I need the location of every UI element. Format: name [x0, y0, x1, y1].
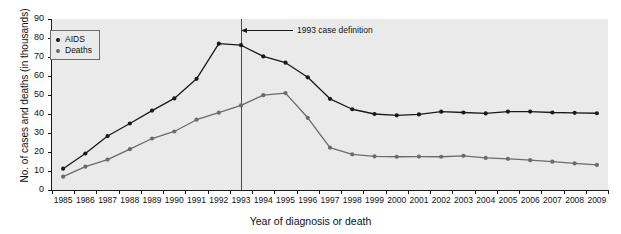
x-tick-mark — [519, 190, 520, 194]
y-tick-mark — [48, 152, 52, 153]
x-tick-label-1989: 1989 — [143, 195, 162, 206]
y-tick-mark — [48, 171, 52, 172]
x-tick-mark — [230, 190, 231, 194]
x-tick-label-2009: 2009 — [587, 195, 606, 206]
y-tick-label: 80 — [34, 32, 44, 43]
x-tick-mark — [74, 190, 75, 194]
x-tick-label-1994: 1994 — [254, 195, 273, 206]
x-tick-label-2006: 2006 — [521, 195, 540, 206]
x-tick-mark — [96, 190, 97, 194]
x-tick-mark — [586, 190, 587, 194]
x-tick-label-1996: 1996 — [298, 195, 317, 206]
plot-area — [52, 19, 608, 190]
annotation-label-1993: 1993 case definition — [297, 25, 373, 35]
x-tick-label-1998: 1998 — [343, 195, 362, 206]
y-tick-label: 90 — [34, 13, 44, 24]
x-tick-mark — [341, 190, 342, 194]
x-tick-label-2001: 2001 — [409, 195, 428, 206]
chart-figure: 0102030405060708090 19851986198719881989… — [0, 0, 621, 234]
legend-marker-deaths — [56, 49, 60, 53]
x-tick-label-1987: 1987 — [98, 195, 117, 206]
y-tick-label: 50 — [34, 89, 44, 100]
x-axis-line — [51, 190, 608, 191]
y-tick-label: 30 — [34, 127, 44, 138]
y-tick-label: 60 — [34, 70, 44, 81]
x-tick-label-1988: 1988 — [120, 195, 139, 206]
legend-label-deaths: Deaths — [65, 45, 92, 56]
y-tick-mark — [48, 76, 52, 77]
x-tick-mark — [274, 190, 275, 194]
y-tick-label: 70 — [34, 51, 44, 62]
y-tick-label: 0 — [39, 184, 44, 195]
y-axis-title: No. of cases and deaths (in thousands) — [19, 1, 30, 191]
legend-label-aids: AIDS — [65, 34, 85, 45]
x-axis-title: Year of diagnosis or death — [0, 215, 621, 227]
y-tick-mark — [48, 95, 52, 96]
x-tick-mark — [297, 190, 298, 194]
x-tick-mark — [452, 190, 453, 194]
x-tick-label-1992: 1992 — [209, 195, 228, 206]
x-tick-mark — [363, 190, 364, 194]
x-tick-label-1991: 1991 — [187, 195, 206, 206]
x-tick-mark — [185, 190, 186, 194]
x-tick-label-2000: 2000 — [387, 195, 406, 206]
y-tick-mark — [48, 114, 52, 115]
x-tick-label-2003: 2003 — [454, 195, 473, 206]
x-tick-label-1997: 1997 — [321, 195, 340, 206]
x-tick-label-2004: 2004 — [476, 195, 495, 206]
legend-marker-aids — [56, 38, 60, 42]
x-tick-label-2008: 2008 — [565, 195, 584, 206]
x-tick-mark — [141, 190, 142, 194]
x-tick-mark — [386, 190, 387, 194]
x-tick-mark — [208, 190, 209, 194]
x-tick-label-1986: 1986 — [76, 195, 95, 206]
legend-item-deaths: Deaths — [56, 45, 92, 56]
x-tick-label-1990: 1990 — [165, 195, 184, 206]
y-tick-label: 20 — [34, 146, 44, 157]
x-tick-mark — [564, 190, 565, 194]
x-tick-label-2005: 2005 — [498, 195, 517, 206]
y-tick-label: 10 — [34, 165, 44, 176]
x-tick-label-1985: 1985 — [54, 195, 73, 206]
x-tick-mark — [163, 190, 164, 194]
x-tick-label-2007: 2007 — [543, 195, 562, 206]
x-tick-mark — [52, 190, 53, 194]
y-tick-mark — [48, 19, 52, 20]
x-tick-label-2002: 2002 — [432, 195, 451, 206]
x-tick-label-1995: 1995 — [276, 195, 295, 206]
x-tick-label-1999: 1999 — [365, 195, 384, 206]
x-tick-mark — [252, 190, 253, 194]
x-tick-mark — [319, 190, 320, 194]
reference-line-1993 — [241, 19, 242, 190]
annotation-arrow-icon — [241, 26, 293, 35]
y-tick-label: 40 — [34, 108, 44, 119]
y-tick-mark — [48, 133, 52, 134]
x-tick-mark — [119, 190, 120, 194]
x-tick-mark — [497, 190, 498, 194]
x-tick-mark — [430, 190, 431, 194]
x-tick-mark — [475, 190, 476, 194]
x-tick-mark — [408, 190, 409, 194]
legend-item-aids: AIDS — [56, 34, 92, 45]
x-tick-label-1993: 1993 — [232, 195, 251, 206]
chart-legend: AIDS Deaths — [50, 30, 100, 60]
x-tick-mark — [541, 190, 542, 194]
x-tick-mark — [608, 190, 609, 194]
